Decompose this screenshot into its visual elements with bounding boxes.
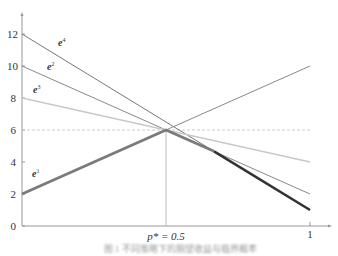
envelope-right bbox=[214, 151, 310, 210]
y-tick-4: 4 bbox=[11, 156, 17, 168]
label-e4: e4 bbox=[58, 37, 65, 48]
x-tick-p-star: p* = 0.5 bbox=[146, 230, 185, 242]
envelope-left bbox=[22, 130, 214, 194]
label-e3: e3 bbox=[33, 84, 40, 95]
chart: 0 2 4 6 8 10 12 e4 e2 e3 e1 p* = 0.5 1 bbox=[0, 0, 338, 256]
label-e1: e1 bbox=[32, 168, 39, 179]
x-tick-1: 1 bbox=[307, 228, 313, 240]
y-axis-arrow-icon bbox=[21, 12, 24, 16]
y-tick-12: 12 bbox=[7, 28, 18, 40]
x-axis-arrow-icon bbox=[328, 225, 332, 228]
figure-caption: 图 1 不同策略下的期望收益与临界概率 bbox=[40, 242, 320, 254]
label-e2: e2 bbox=[47, 61, 54, 72]
y-tick-8: 8 bbox=[11, 92, 17, 104]
y-tick-10: 10 bbox=[7, 60, 19, 72]
y-tick-2: 2 bbox=[11, 188, 17, 200]
y-tick-0: 0 bbox=[11, 220, 17, 232]
y-tick-6: 6 bbox=[11, 124, 17, 136]
